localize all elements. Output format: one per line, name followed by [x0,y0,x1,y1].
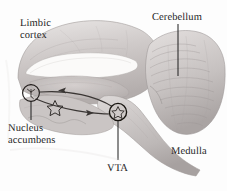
brain-reward-pathway-figure: Limbic cortex Cerebellum Nucleus accumbe… [0,0,227,191]
label-medulla: Medulla [171,146,207,158]
cerebellum-structure [145,31,225,135]
vta-circle-icon [109,103,126,120]
cerebellum-outline [145,31,225,135]
label-cerebellum: Cerebellum [152,12,202,24]
label-nucleus-accumbens: Nucleus accumbens [8,123,56,146]
label-vta: VTA [107,163,128,175]
label-limbic-cortex: Limbic cortex [20,18,51,41]
